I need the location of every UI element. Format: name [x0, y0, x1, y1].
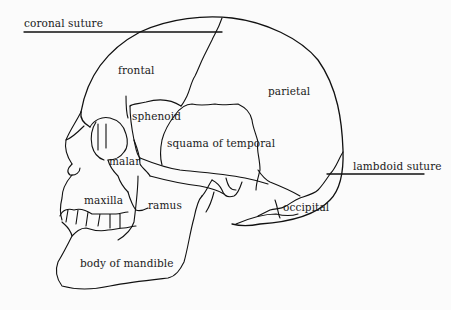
sphenoid-tip — [126, 96, 128, 118]
label-parietal: parietal — [268, 86, 310, 97]
zygomatic-arch-lower — [150, 176, 224, 194]
nasal-bone — [98, 124, 106, 150]
occipital-lower-border — [236, 214, 298, 224]
nose-tip — [68, 164, 80, 175]
label-maxilla: maxilla — [84, 195, 123, 206]
maxilla-outline — [61, 175, 73, 220]
label-coronal-suture: coronal suture — [24, 18, 103, 29]
mastoid — [206, 192, 214, 212]
label-ramus: ramus — [148, 200, 182, 211]
frontal-sphenoid-border — [130, 100, 181, 106]
label-frontal: frontal — [118, 65, 155, 76]
zygomatic-arch — [140, 158, 268, 184]
maxilla-lower — [128, 192, 148, 211]
label-malar: malar — [109, 156, 140, 167]
label-occipital: occipital — [283, 202, 329, 213]
skull-drawing — [0, 0, 451, 310]
skull-diagram: coronal suture frontal parietal sphenoid… — [0, 0, 451, 310]
label-sphenoid: sphenoid — [132, 111, 181, 122]
ear-region — [212, 178, 242, 197]
nasal-outline — [65, 112, 81, 164]
label-squama-of-temporal: squama of temporal — [167, 138, 275, 149]
forehead-outline — [81, 112, 90, 127]
upper-teeth — [60, 209, 128, 228]
label-body-of-mandible: body of mandible — [80, 258, 174, 269]
label-lambdoid-suture: lambdoid suture — [353, 161, 442, 172]
lower-teeth — [62, 222, 136, 236]
coronal-suture — [181, 18, 222, 106]
